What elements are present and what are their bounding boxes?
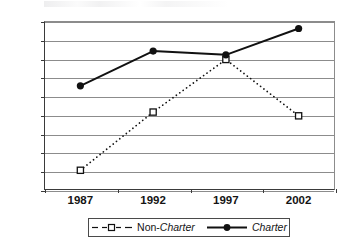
legend-item-charter: Charter: [206, 222, 287, 233]
x-axis-label: 1997: [196, 194, 256, 206]
legend-item-non-charter: Non-Charter: [91, 222, 195, 233]
gridline: [45, 172, 334, 173]
y-tick-mark: [41, 22, 45, 23]
scan-artifact: [44, 1, 229, 7]
x-tick-mark: [118, 189, 119, 193]
gridline: [45, 22, 334, 23]
x-tick-mark: [336, 189, 337, 193]
y-tick-mark: [41, 60, 45, 61]
gridline: [45, 191, 334, 192]
gridline: [45, 60, 334, 61]
x-tick-mark: [191, 189, 192, 193]
gridline: [45, 78, 334, 79]
y-tick-mark: [41, 41, 45, 42]
legend-label-non-charter: Non-Charter: [137, 222, 195, 233]
y-tick-mark: [41, 78, 45, 79]
y-tick-mark: [41, 153, 45, 154]
y-tick-mark: [41, 116, 45, 117]
x-axis-label: 2002: [269, 194, 329, 206]
legend: Non-Charter Charter: [88, 218, 290, 237]
legend-label-charter: Charter: [252, 222, 287, 233]
gridline: [45, 41, 334, 42]
y-tick-mark: [41, 97, 45, 98]
y-tick-mark: [41, 172, 45, 173]
x-axis-label: 1992: [123, 194, 183, 206]
x-tick-mark: [45, 189, 46, 193]
plot-area: [44, 21, 335, 190]
gridline: [45, 153, 334, 154]
x-axis-label: 1987: [50, 194, 110, 206]
x-tick-mark: [263, 189, 264, 193]
solid-filled-circle-key-icon: [206, 222, 248, 233]
line-chart: 00.020.040.060.080.10.120.140.160.18 198…: [0, 0, 348, 252]
y-tick-mark: [41, 135, 45, 136]
gridline: [45, 135, 334, 136]
gridline: [45, 116, 334, 117]
gridline: [45, 97, 334, 98]
dotted-open-square-key-icon: [91, 222, 133, 233]
